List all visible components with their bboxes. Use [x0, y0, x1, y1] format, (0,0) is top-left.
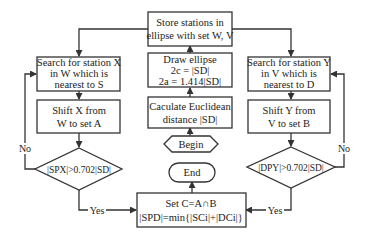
node-shift-y-line1: Shift Y from	[263, 105, 316, 116]
node-search-x-line3: nearest to S	[55, 79, 104, 90]
node-search-x-line2: in W which is	[50, 68, 108, 79]
node-calculate-distance: Caculate Euclidean distance |SD|	[148, 97, 232, 128]
edge-label-no-left: No	[19, 143, 31, 154]
node-shift-y: Shift Y from V to set B	[248, 100, 330, 133]
node-condition-x: |SPX|>0.702|SD|	[35, 148, 122, 190]
flowchart-diagram: Store stations in ellipse with set W, V …	[0, 0, 366, 241]
node-cond-x-label: |SPX|>0.702|SD|	[47, 165, 111, 175]
node-calc-line1: Caculate Euclidean	[149, 101, 231, 112]
node-cond-y-label: |DPY|>0.702|SD|	[258, 163, 324, 173]
node-calc-line2: distance |SD|	[163, 114, 218, 125]
node-begin: Begin	[164, 136, 218, 152]
node-shift-y-line2: V to set B	[268, 118, 310, 129]
node-shift-x-line1: Shift X from	[52, 105, 106, 116]
node-search-y-line2: in V which is	[261, 68, 317, 79]
edge-label-yes-left: Yes	[90, 205, 105, 216]
edge-store-to-search-x	[79, 29, 148, 56]
node-draw-line2: 2c = |SD|	[171, 65, 210, 76]
edge-label-no-right: No	[338, 143, 350, 154]
node-draw-line3: 2a = 1.414|SD|	[159, 76, 221, 87]
node-end: End	[169, 163, 215, 182]
node-setc-line2: |SPD|=min{|SCi|+|DCi|}	[139, 212, 242, 223]
edge-cond-x-no-loop	[25, 74, 36, 169]
edge-store-to-search-y	[232, 29, 291, 56]
node-search-y-line3: nearest to D	[264, 79, 315, 90]
edge-label-yes-right: Yes	[268, 205, 283, 216]
node-draw-line1: Draw ellipse	[163, 54, 217, 65]
node-search-x-line1: Search for station X	[37, 57, 122, 68]
node-store-line1: Store stations in	[156, 17, 224, 28]
node-search-y-line1: Search for station Y	[247, 57, 331, 68]
node-shift-x: Shift X from W to set A	[37, 100, 120, 133]
node-draw-ellipse: Draw ellipse 2c = |SD| 2a = 1.414|SD|	[148, 53, 232, 87]
node-end-label: End	[184, 167, 202, 178]
edge-cond-x-yes	[79, 190, 136, 210]
node-setc-line1: Set C=A∩B	[165, 198, 216, 209]
node-search-x: Search for station X in W which is neare…	[37, 57, 122, 91]
node-store-stations: Store stations in ellipse with set W, V	[146, 12, 233, 46]
node-store-line2: ellipse with set W, V	[146, 30, 233, 41]
node-begin-label: Begin	[178, 139, 204, 150]
node-shift-x-line2: W to set A	[57, 118, 102, 129]
node-condition-y: |DPY|>0.702|SD|	[247, 147, 335, 188]
node-search-y: Search for station Y in V which is neare…	[247, 57, 331, 91]
node-set-c: Set C=A∩B |SPD|=min{|SCi|+|DCi|}	[137, 193, 246, 227]
